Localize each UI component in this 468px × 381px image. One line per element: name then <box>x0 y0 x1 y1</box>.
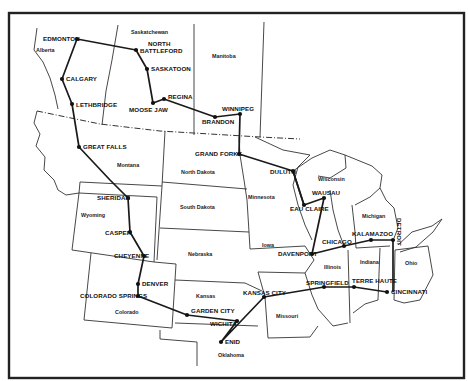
city-grand-forks: GRAND FORKS <box>195 150 242 157</box>
city-label: REGINA <box>168 93 193 100</box>
city-label: CASPER <box>105 229 132 236</box>
region-label-colorado: Colorado <box>115 309 139 315</box>
city-label: EAU CLAIRE <box>290 205 329 212</box>
region-label-illinois: Illinois <box>324 264 341 270</box>
region-label-oklahoma: Oklahoma <box>218 352 245 358</box>
city-dot-icon <box>385 290 389 294</box>
city-great-falls: GREAT FALLS <box>77 143 127 150</box>
city-label: CALGARY <box>66 75 98 82</box>
city-cincinnati: CINCINNATI <box>385 288 428 295</box>
city-wichita: WICHITA <box>210 319 239 327</box>
city-dot-icon <box>369 238 373 242</box>
city-dot-icon <box>70 102 74 106</box>
city-label: MOOSE JAW <box>129 106 168 113</box>
city-calgary: CALGARY <box>60 75 98 82</box>
region-label-missouri: Missouri <box>276 313 299 319</box>
city-saskatoon: SASKATOON <box>145 65 191 72</box>
city-winnipeg: WINNIPEG <box>222 105 254 116</box>
city-duluth: DULUTH <box>270 168 296 175</box>
city-label: EDMONTON <box>43 35 80 42</box>
city-colorado-springs: COLORADO SPRINGS <box>80 292 147 299</box>
city-dot-icon <box>352 285 356 289</box>
region-label-montana: Montana <box>117 162 140 168</box>
boundaries <box>34 22 442 366</box>
city-label: DENVER <box>142 280 169 287</box>
city-dot-icon <box>219 340 223 344</box>
city-label: DETROIT <box>396 218 403 246</box>
region-label-minnesota: Minnesota <box>248 194 276 200</box>
city-cheyenne: CHEYENNE <box>114 252 149 259</box>
city-label: KANSAS CITY <box>243 289 287 296</box>
region-label-nebraska: Nebraska <box>188 251 213 257</box>
city-label: KALAMAZOO <box>352 230 393 237</box>
region-label-wisconsin: Wisconsin <box>318 176 345 182</box>
city-label: GARDEN CITY <box>191 307 235 314</box>
city-label: TERRE HAUTE <box>352 277 397 284</box>
city-label: CINCINNATI <box>391 288 427 295</box>
city-davenport: DAVENPORT <box>278 250 317 257</box>
city-north-battleford: NORTHBATTLEFORD <box>134 40 183 54</box>
region-label-alberta: Alberta <box>36 47 56 53</box>
city-dot-icon <box>238 112 242 116</box>
region-label-michigan: Michigan <box>362 213 385 219</box>
city-markers: EDMONTONCALGARYLETHBRIDGENORTHBATTLEFORD… <box>43 35 427 345</box>
city-dot-icon <box>322 196 326 200</box>
city-chicago: CHICAGO <box>322 238 352 248</box>
region-label-manitoba: Manitoba <box>212 53 237 59</box>
city-denver: DENVER <box>136 280 169 287</box>
region-label-ohio: Ohio <box>405 260 418 266</box>
city-label: CHEYENNE <box>114 252 149 259</box>
city-label: ENID <box>225 338 241 345</box>
route-map: AlbertaSaskatchewanManitobaMontanaNorth … <box>0 0 468 381</box>
city-label: CHICAGO <box>322 238 352 245</box>
city-dot-icon <box>151 101 155 105</box>
city-wausau: WAUSAU <box>312 189 341 200</box>
region-label-iowa: Iowa <box>262 242 275 248</box>
city-kansas-city: KANSAS CITY <box>243 289 287 299</box>
city-label: SASKATOON <box>151 65 191 72</box>
city-dot-icon <box>60 77 64 81</box>
city-label: WINNIPEG <box>222 105 254 112</box>
region-label-south-dakota: South Dakota <box>180 204 216 210</box>
city-edmonton: EDMONTON <box>43 35 80 42</box>
city-dot-icon <box>391 238 395 242</box>
city-moose-jaw: MOOSE JAW <box>129 101 168 113</box>
city-label: GRAND FORKS <box>195 150 242 157</box>
region-label-kansas: Kansas <box>196 293 215 299</box>
city-label: COLORADO SPRINGS <box>80 292 147 299</box>
city-dot-icon <box>185 313 189 317</box>
city-dot-icon <box>145 67 149 71</box>
city-label: DULUTH <box>270 168 296 175</box>
region-label-north-dakota: North Dakota <box>181 169 216 175</box>
city-label: DAVENPORT <box>278 250 317 257</box>
city-label: SHERIDAN <box>97 194 131 201</box>
city-sheridan: SHERIDAN <box>97 194 131 201</box>
city-label: NORTHBATTLEFORD <box>140 40 183 54</box>
region-label-wyoming: Wyoming <box>81 212 105 218</box>
city-label: SPRINGFIELD <box>306 279 349 286</box>
city-label: BRANDON <box>202 118 235 125</box>
city-label: GREAT FALLS <box>83 143 127 150</box>
city-dot-icon <box>162 97 166 101</box>
city-label: LETHBRIDGE <box>76 101 117 108</box>
region-label-saskatchewan: Saskatchewan <box>131 29 168 35</box>
city-enid: ENID <box>219 338 241 345</box>
city-lethbridge: LETHBRIDGE <box>70 101 117 108</box>
city-dot-icon <box>134 48 138 52</box>
city-dot-icon <box>77 145 81 149</box>
city-eau-claire: EAU CLAIRE <box>290 203 329 212</box>
city-dot-icon <box>136 282 140 286</box>
city-casper: CASPER <box>105 229 132 236</box>
city-label: WICHITA <box>210 320 237 327</box>
city-label: WAUSAU <box>312 189 341 196</box>
region-label-indiana: Indiana <box>360 259 380 265</box>
